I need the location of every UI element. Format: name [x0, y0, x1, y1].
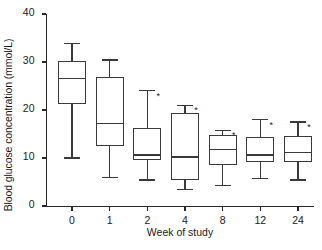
median-line: [96, 123, 124, 124]
x-tick: [297, 206, 298, 211]
y-tick-label: 10: [23, 150, 35, 162]
median-line: [246, 154, 274, 155]
median-line: [284, 152, 312, 153]
box-plot-group: *: [133, 14, 161, 206]
median-line: [133, 154, 161, 155]
upper-whisker: [297, 122, 298, 136]
median-line: [209, 149, 237, 150]
x-axis-title: Week of study: [46, 226, 314, 238]
lower-whisker-cap: [64, 157, 80, 158]
box-iqr-rect: [246, 137, 274, 162]
box-iqr-rect: [58, 61, 86, 104]
upper-whisker: [71, 43, 72, 61]
plot-area: 010203040 012481224 *****: [46, 14, 314, 206]
y-tick-label: 20: [23, 102, 35, 114]
x-tick-label: 8: [220, 214, 226, 226]
y-tick: 10: [42, 157, 47, 158]
x-tick-label: 2: [144, 214, 150, 226]
lower-whisker-cap: [290, 179, 306, 180]
lower-whisker-cap: [252, 178, 268, 179]
y-tick: 0: [42, 205, 47, 206]
x-tick: [71, 206, 72, 211]
box-iqr-rect: [171, 113, 199, 180]
box-plot-group: [96, 14, 124, 206]
upper-whisker: [184, 105, 185, 113]
lower-whisker: [147, 160, 148, 180]
lower-whisker-cap: [177, 189, 193, 190]
y-tick-label: 30: [23, 54, 35, 66]
x-tick-label: 1: [107, 214, 113, 226]
box-iqr-rect: [96, 77, 124, 146]
significance-marker: *: [194, 106, 198, 115]
median-line: [171, 156, 199, 157]
lower-whisker: [260, 162, 261, 178]
x-tick: [184, 206, 185, 211]
median-line: [58, 78, 86, 79]
upper-whisker: [109, 60, 110, 77]
significance-marker: *: [307, 123, 311, 132]
x-tick: [109, 206, 110, 211]
upper-whisker-cap: [177, 105, 193, 106]
x-tick: [222, 206, 223, 211]
y-tick-label: 40: [23, 6, 35, 18]
box-plot-group: [58, 14, 86, 206]
upper-whisker-cap: [215, 130, 231, 131]
upper-whisker: [260, 120, 261, 137]
box-plot-group: *: [284, 14, 312, 206]
y-tick-label: 0: [29, 198, 35, 210]
lower-whisker-cap: [139, 179, 155, 180]
box-iqr-rect: [284, 136, 312, 162]
x-tick-label: 4: [182, 214, 188, 226]
lower-whisker: [109, 146, 110, 177]
x-axis-line: [46, 206, 314, 207]
upper-whisker: [147, 91, 148, 128]
upper-whisker-cap: [290, 121, 306, 122]
box-plot-group: *: [246, 14, 274, 206]
lower-whisker: [297, 162, 298, 180]
box-plot-group: *: [209, 14, 237, 206]
x-tick-label: 24: [292, 214, 304, 226]
upper-whisker-cap: [64, 43, 80, 44]
x-tick: [260, 206, 261, 211]
upper-whisker-cap: [139, 90, 155, 91]
box-plot-group: *: [171, 14, 199, 206]
y-tick: 20: [42, 109, 47, 110]
upper-whisker-cap: [102, 59, 118, 60]
y-axis-line: [46, 14, 47, 206]
significance-marker: *: [270, 120, 274, 129]
significance-marker: *: [232, 131, 236, 140]
y-axis-title: Blood glucose concentration (mmol/L): [0, 0, 16, 250]
upper-whisker-cap: [252, 119, 268, 120]
x-tick-label: 12: [254, 214, 266, 226]
boxplot-figure: Blood glucose concentration (mmol/L) 010…: [0, 0, 322, 250]
y-tick: 30: [42, 61, 47, 62]
y-tick: 40: [42, 13, 47, 14]
lower-whisker: [71, 104, 72, 158]
x-tick-label: 0: [69, 214, 75, 226]
x-tick: [147, 206, 148, 211]
lower-whisker-cap: [102, 177, 118, 178]
significance-marker: *: [157, 91, 161, 100]
lower-whisker-cap: [215, 185, 231, 186]
lower-whisker: [222, 165, 223, 186]
